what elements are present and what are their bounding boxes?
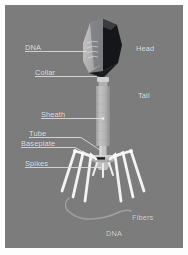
phage-diagram-figure: DNA Collar Sheath Tube Baseplate Spikes … [0,0,188,255]
tail-tube [100,146,107,155]
label-fibers: Fibers [132,214,153,222]
spike [109,163,113,175]
fiber-joint [114,154,117,157]
fiber-joint [121,151,124,154]
collar-band [97,77,109,82]
collar-structure [97,77,109,86]
tail-sheath [96,86,110,146]
label-spikes: Spikes [25,160,48,168]
label-head: Head [136,45,154,53]
spike [93,163,97,175]
label-dna-bottom: DNA [106,230,122,238]
label-collar: Collar [35,69,55,77]
diagram-panel: DNA Collar Sheath Tube Baseplate Spikes … [5,5,183,248]
ejected-dna-strand [67,210,131,219]
label-baseplate: Baseplate [21,140,55,148]
label-dna-top: DNA [25,44,41,52]
label-sheath: Sheath [41,111,65,119]
ejected-dna-tail [65,198,69,210]
fiber-joint [73,149,77,153]
bacteriophage-illustration [5,5,183,248]
tube-highlight [100,146,102,155]
spikes-group [93,163,113,177]
collar-neck [99,82,108,86]
label-tube: Tube [29,130,46,138]
label-tail: Tail [138,92,150,100]
fiber-joint [129,149,133,153]
capsid-head [83,19,122,78]
leader-endpoint-sheath [102,117,105,120]
